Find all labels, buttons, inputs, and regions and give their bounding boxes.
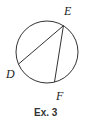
circle [16, 21, 78, 83]
caption: Ex. 3 [34, 107, 58, 118]
point-label-f: F [55, 89, 64, 103]
point-label-e: E [63, 4, 72, 18]
chord-ed [18, 26, 63, 64]
diagram: E D F Ex. 3 [0, 0, 95, 120]
point-label-d: D [5, 67, 15, 81]
chord-ef [54, 26, 63, 82]
